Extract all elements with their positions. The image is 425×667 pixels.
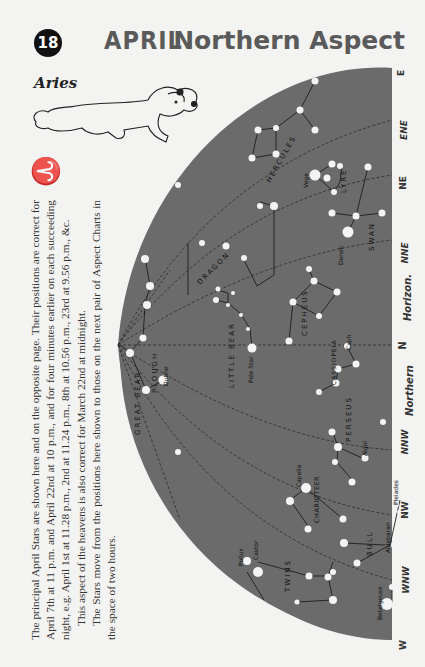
label-perseus: PERSEUS (345, 396, 353, 442)
label-vega: Vega (302, 173, 310, 188)
star-chart: HERCULES LYRE SWAN DRAGON GREAT BEAR PLO… (0, 0, 425, 667)
label-castor: Castor (252, 540, 259, 560)
compass-nw: NW (400, 501, 410, 518)
compass-nnw: NNW (400, 430, 410, 455)
compass-n: N (397, 341, 408, 349)
label-great-bear: GREAT BEAR (134, 371, 142, 435)
compass-northern: Northern (404, 365, 415, 416)
label-bull: BULL (366, 530, 374, 556)
compass-ene: ENE (399, 120, 409, 140)
label-pollux: Pollux (237, 548, 244, 566)
label-charioteer: CHARIOTEER (313, 476, 321, 523)
label-cepheus: CEPHEUS (301, 289, 309, 336)
label-aldebaran: Aldebaran (384, 522, 391, 553)
compass-horizon: Horizon. (402, 274, 413, 321)
label-dubhe: Dubhe (162, 366, 169, 386)
label-deneb: Deneb (337, 245, 344, 265)
label-lyre: LYRE (340, 168, 348, 193)
compass-wnw: WNW (401, 566, 411, 593)
label-pleiades: Pleiades (392, 480, 399, 505)
label-algol: Algol (361, 441, 369, 456)
compass-nne: NNE (400, 242, 410, 263)
compass-e: E (396, 70, 406, 76)
label-betelgeuse: Betelgeuse (376, 586, 384, 620)
label-pole-star: Pole Star (247, 356, 254, 383)
label-caph: Caph (345, 334, 353, 350)
label-plough: PLOUGH (151, 352, 159, 393)
label-cassiopeia: CASSIOPEIA (330, 339, 337, 385)
label-swan: SWAN (368, 222, 376, 251)
label-capella: Capella (295, 464, 303, 487)
label-twins: TWINS (284, 559, 292, 593)
compass-ne: NE (398, 176, 408, 190)
compass-w: W (398, 640, 408, 650)
label-little-bear: LITTLE BEAR (228, 322, 236, 388)
